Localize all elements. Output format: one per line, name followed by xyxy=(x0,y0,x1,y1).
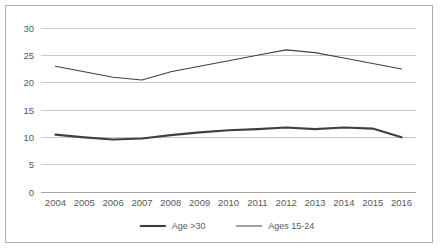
x-axis-tick-label: 2015 xyxy=(362,197,383,208)
gridlines xyxy=(41,28,416,192)
x-axis-tick-label: 2004 xyxy=(45,197,66,208)
y-axis-tick-label: 5 xyxy=(29,159,34,170)
chart-legend: Age >30Ages 15-24 xyxy=(140,221,314,231)
x-axis-tick-label: 2006 xyxy=(103,197,124,208)
x-axis-tick-label: 2009 xyxy=(189,197,210,208)
x-axis-tick-labels: 2004200520062007200820092010201120122013… xyxy=(45,197,412,208)
x-axis-tick-label: 2010 xyxy=(218,197,239,208)
y-axis-tick-label: 10 xyxy=(23,132,34,143)
y-axis-tick-label: 0 xyxy=(29,187,34,198)
legend-label: Ages 15-24 xyxy=(268,221,314,231)
y-axis-tick-label: 30 xyxy=(23,23,34,34)
chart-frame: 051015202530 200420052006200720082009201… xyxy=(5,5,433,243)
legend-label: Age >30 xyxy=(172,221,206,231)
y-axis-tick-label: 25 xyxy=(23,50,34,61)
x-axis-tick-label: 2007 xyxy=(131,197,152,208)
y-axis-tick-label: 20 xyxy=(23,77,34,88)
line-chart: 051015202530 200420052006200720082009201… xyxy=(6,6,432,242)
y-axis-tick-labels: 051015202530 xyxy=(23,23,34,198)
x-axis-tick-label: 2014 xyxy=(333,197,354,208)
x-axis-tick-label: 2005 xyxy=(74,197,95,208)
x-axis-tick-label: 2016 xyxy=(391,197,412,208)
y-axis-tick-label: 15 xyxy=(23,105,34,116)
x-axis-tick-label: 2011 xyxy=(247,197,267,208)
x-axis-tick-label: 2008 xyxy=(160,197,181,208)
data-series xyxy=(55,50,401,140)
x-axis-tick-label: 2012 xyxy=(276,197,297,208)
x-axis-tick-label: 2013 xyxy=(304,197,325,208)
series-line xyxy=(55,50,401,80)
